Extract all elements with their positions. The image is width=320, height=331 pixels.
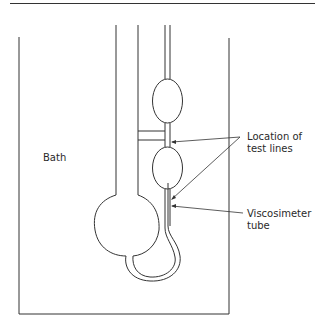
arrowhead [171, 140, 176, 144]
test-lines-label-line1: Location of [247, 131, 302, 142]
upper-bulb [153, 79, 183, 123]
bath-label: Bath [43, 152, 66, 163]
capillary-top [165, 25, 170, 79]
lower-bulb [153, 147, 183, 189]
tube-label-line1: Viscosimeter [247, 208, 311, 219]
viscosimeter-diagram [0, 0, 320, 331]
leader-lines [172, 137, 243, 213]
test-lines-label-line2: test lines [247, 143, 293, 154]
capillary-mid [165, 123, 170, 147]
u-bend-inner [133, 228, 175, 277]
arrowhead [171, 204, 176, 208]
tube-label-line2: tube [247, 220, 270, 231]
leader-test-lines-1 [172, 137, 240, 142]
leader-tube [172, 206, 243, 213]
